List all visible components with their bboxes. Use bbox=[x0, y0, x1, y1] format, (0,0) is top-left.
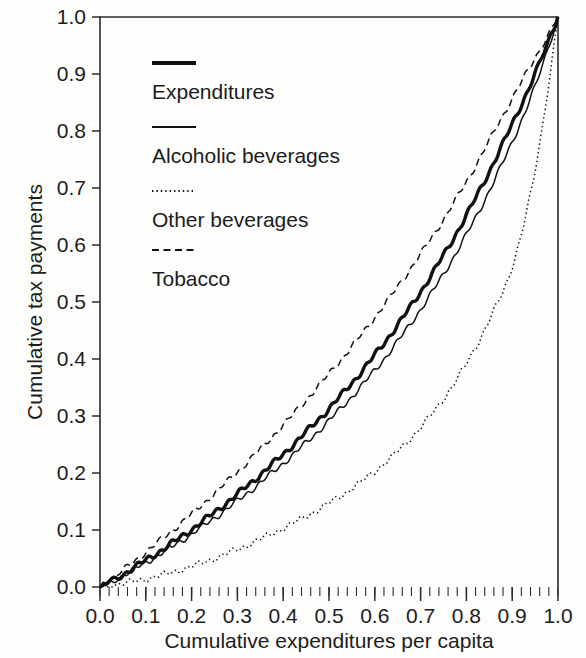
x-tick-label: 0.6 bbox=[360, 604, 389, 627]
x-tick-label: 0.5 bbox=[314, 604, 343, 627]
lorenz-curve-chart: 0.00.10.20.30.40.50.60.70.80.91.0 0.00.1… bbox=[0, 0, 586, 658]
x-tick-label: 0.4 bbox=[269, 604, 299, 627]
y-tick-label: 0.6 bbox=[57, 233, 86, 256]
x-axis-title: Cumulative expenditures per capita bbox=[164, 629, 494, 652]
y-tick-label: 0.1 bbox=[57, 518, 86, 541]
x-tick-label: 1.0 bbox=[543, 604, 572, 627]
x-tick-label: 0.1 bbox=[131, 604, 160, 627]
legend-label-tobacco: Tobacco bbox=[152, 267, 230, 290]
legend-label-alcoholic-beverages: Alcoholic beverages bbox=[152, 144, 340, 167]
x-axis-ticks bbox=[100, 587, 558, 601]
y-tick-label: 0.0 bbox=[57, 575, 86, 598]
y-tick-label: 0.3 bbox=[57, 404, 86, 427]
y-tick-label: 1.0 bbox=[57, 5, 86, 28]
y-tick-label: 0.9 bbox=[57, 62, 86, 85]
x-tick-label: 0.9 bbox=[498, 604, 527, 627]
x-axis-tick-labels: 0.00.10.20.30.40.50.60.70.80.91.0 bbox=[85, 604, 572, 627]
legend: Expenditures Alcoholic beverages Other b… bbox=[152, 63, 340, 290]
chart-figure: 0.00.10.20.30.40.50.60.70.80.91.0 0.00.1… bbox=[0, 0, 586, 658]
x-tick-label: 0.3 bbox=[223, 604, 252, 627]
y-axis-ticks bbox=[92, 17, 100, 587]
legend-label-expenditures: Expenditures bbox=[152, 80, 275, 103]
x-tick-label: 0.0 bbox=[85, 604, 114, 627]
legend-label-other-beverages: Other beverages bbox=[152, 208, 308, 231]
x-tick-label: 0.2 bbox=[177, 604, 206, 627]
y-tick-label: 0.8 bbox=[57, 119, 86, 142]
y-tick-label: 0.4 bbox=[57, 347, 87, 370]
y-tick-label: 0.5 bbox=[57, 290, 86, 313]
y-axis-title: Cumulative tax payments bbox=[23, 184, 46, 420]
x-tick-label: 0.7 bbox=[406, 604, 435, 627]
y-axis-tick-labels: 0.00.10.20.30.40.50.60.70.80.91.0 bbox=[57, 5, 87, 598]
x-tick-label: 0.8 bbox=[452, 604, 481, 627]
y-tick-label: 0.7 bbox=[57, 176, 86, 199]
y-tick-label: 0.2 bbox=[57, 461, 86, 484]
